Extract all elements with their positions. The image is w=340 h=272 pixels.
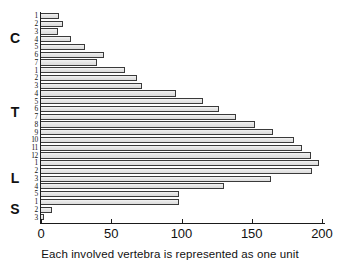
bar-row: [41, 98, 322, 104]
bar-row: [41, 44, 322, 50]
region-letter-lumbar: L: [6, 170, 24, 186]
bar-c6: [41, 52, 104, 58]
bar-row: [41, 176, 322, 182]
bar-l4: [41, 183, 224, 189]
bar-c7: [41, 59, 97, 65]
x-axis-tick: [322, 219, 323, 224]
bar-t11: [41, 145, 302, 151]
bar-row: [41, 106, 322, 112]
bar-row: [41, 137, 322, 143]
bar-row: [41, 13, 322, 19]
bar-row: [41, 152, 322, 158]
bar-t9: [41, 129, 273, 135]
bar-c1: [41, 13, 59, 19]
bar-row: [41, 59, 322, 65]
x-axis-tick: [252, 219, 253, 224]
bar-row: [41, 114, 322, 120]
x-axis-label-100: 100: [162, 226, 202, 241]
bar-row: [41, 83, 322, 89]
bar-s1: [41, 199, 179, 205]
bar-t7: [41, 114, 236, 120]
x-axis-tick: [182, 219, 183, 224]
x-axis-label-150: 150: [232, 226, 272, 241]
x-axis-tick: [111, 219, 112, 224]
bar-row: [41, 207, 322, 213]
vertebra-involvement-bar-chart: 123456712345678910111212345123 CTLS 0501…: [0, 0, 340, 272]
bar-t5: [41, 98, 203, 104]
region-letter-cervical: C: [6, 30, 24, 46]
x-axis-label-200: 200: [302, 226, 340, 241]
bar-l5: [41, 191, 179, 197]
bar-c5: [41, 44, 85, 50]
bar-l1: [41, 160, 319, 166]
bar-row: [41, 129, 322, 135]
bar-t8: [41, 121, 255, 127]
plot-area: [41, 13, 322, 222]
bar-row: [41, 145, 322, 151]
bar-row: [41, 191, 322, 197]
bar-l3: [41, 176, 271, 182]
region-letter-sacral: S: [6, 201, 24, 217]
bar-t6: [41, 106, 219, 112]
bar-row: [41, 28, 322, 34]
bar-t2: [41, 75, 137, 81]
bar-l2: [41, 168, 312, 174]
bar-t1: [41, 67, 125, 73]
bar-t12: [41, 152, 311, 158]
bar-row: [41, 199, 322, 205]
bar-s2: [41, 207, 52, 213]
bar-row: [41, 121, 322, 127]
x-axis-label-0: 0: [21, 226, 61, 241]
bar-t10: [41, 137, 294, 143]
bar-row: [41, 21, 322, 27]
bar-row: [41, 36, 322, 42]
bar-row: [41, 160, 322, 166]
category-tick-label-s3: 3: [28, 214, 38, 221]
bar-t3: [41, 83, 142, 89]
bar-row: [41, 75, 322, 81]
bar-row: [41, 90, 322, 96]
bar-row: [41, 183, 322, 189]
chart-caption: Each involved vertebra is represented as…: [0, 248, 340, 260]
bar-c3: [41, 28, 58, 34]
bar-t4: [41, 90, 176, 96]
bar-c4: [41, 36, 71, 42]
bar-row: [41, 52, 322, 58]
bar-c2: [41, 21, 63, 27]
region-letter-thoracic: T: [6, 104, 24, 120]
x-axis-tick: [41, 219, 42, 224]
x-axis-line: [40, 223, 325, 224]
x-axis-label-50: 50: [91, 226, 131, 241]
bar-row: [41, 67, 322, 73]
bar-row: [41, 168, 322, 174]
